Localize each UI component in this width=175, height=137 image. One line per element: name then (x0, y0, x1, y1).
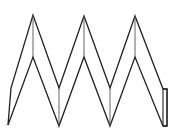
zigzag-diagram (0, 0, 175, 137)
diagram-canvas (0, 0, 175, 137)
fold-lines (33, 15, 135, 126)
outer-outline (8, 15, 167, 126)
inner-outline (8, 57, 163, 126)
